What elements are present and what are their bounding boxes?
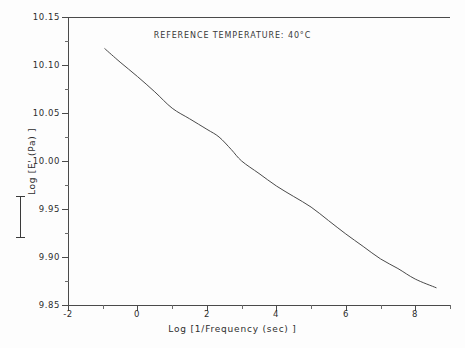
- y-tick-mark: [62, 209, 69, 210]
- y-axis-direction-bracket-icon: [16, 196, 25, 238]
- y-tick-label: 9.90: [18, 253, 60, 262]
- x-tick-label: 6: [334, 310, 358, 319]
- x-tick-label: 2: [195, 310, 219, 319]
- x-tick-label: -2: [56, 310, 80, 319]
- y-tick-mark: [62, 113, 69, 114]
- x-tick-label: 8: [403, 310, 427, 319]
- x-minor-tick-mark: [311, 305, 312, 309]
- axis-top-line: [68, 17, 450, 18]
- y-tick-label: 10.10: [18, 61, 60, 70]
- chart-figure: REFERENCE TEMPERATURE: 40°C 9.859.909.95…: [0, 0, 465, 348]
- x-minor-tick-mark: [242, 305, 243, 309]
- y-axis-label: Log [E' (Pa) ]: [27, 128, 37, 195]
- y-minor-tick-mark: [65, 41, 69, 42]
- chart-title: REFERENCE TEMPERATURE: 40°C: [0, 31, 465, 40]
- y-tick-mark: [62, 17, 69, 18]
- y-tick-mark: [62, 161, 69, 162]
- y-axis-label-group: Log [E' (Pa) ]: [11, 85, 29, 195]
- axis-bottom-line: [68, 305, 450, 306]
- y-minor-tick-mark: [65, 281, 69, 282]
- x-tick-label: 4: [264, 310, 288, 319]
- data-series-line: [105, 49, 436, 288]
- x-minor-tick-mark: [172, 305, 173, 309]
- y-minor-tick-mark: [65, 137, 69, 138]
- plot-canvas: [0, 0, 465, 348]
- y-tick-mark: [62, 65, 69, 66]
- y-tick-label: 10.15: [18, 13, 60, 22]
- y-minor-tick-mark: [65, 89, 69, 90]
- x-minor-tick-mark: [103, 305, 104, 309]
- x-minor-tick-mark: [381, 305, 382, 309]
- x-minor-tick-mark: [450, 305, 451, 309]
- y-tick-mark: [62, 257, 69, 258]
- y-tick-label: 9.85: [18, 301, 60, 310]
- x-axis-label: Log [1/Frequency (sec) ]: [0, 324, 465, 334]
- y-minor-tick-mark: [65, 233, 69, 234]
- x-tick-label: 0: [125, 310, 149, 319]
- y-minor-tick-mark: [65, 185, 69, 186]
